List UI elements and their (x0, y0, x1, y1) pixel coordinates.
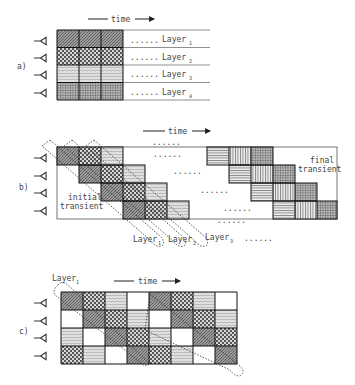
svg-text:......: ...... (244, 234, 273, 243)
antenna-icon (34, 89, 46, 96)
layer-diagram: a) time ...... ...... (0, 0, 355, 385)
svg-text:......: ...... (173, 167, 202, 176)
antenna-icon (34, 334, 46, 341)
antenna-icon (34, 299, 46, 306)
antenna-icon (34, 172, 46, 179)
layer-1-label: Layer (162, 35, 186, 44)
svg-text:2: 2 (189, 58, 192, 64)
panel-a-grid (57, 30, 123, 100)
antenna-icons-a (34, 37, 46, 96)
svg-text:1: 1 (76, 279, 79, 285)
svg-text:......: ...... (153, 150, 182, 159)
final-transient-label: final (310, 156, 334, 165)
svg-text:......: ...... (130, 70, 159, 79)
antenna-icon (34, 37, 46, 44)
svg-text:time: time (138, 277, 157, 286)
antenna-icon (34, 154, 46, 161)
svg-text:transient: transient (60, 202, 104, 211)
svg-text:1: 1 (189, 40, 192, 46)
svg-text:......: ...... (200, 186, 229, 195)
layer-1-label-c: Layer (52, 274, 76, 283)
antenna-icon (34, 71, 46, 78)
svg-text:2: 2 (193, 240, 196, 246)
layer-3-label: Layer (162, 70, 186, 79)
panel-c-grid (54, 283, 243, 377)
svg-text:time: time (168, 127, 187, 136)
layer-2-label: Layer (162, 53, 186, 62)
svg-text:Layer: Layer (205, 233, 229, 242)
antenna-icons-b (34, 154, 46, 214)
svg-text:3: 3 (230, 238, 233, 244)
svg-text:......: ...... (223, 204, 252, 213)
panel-c-label: c) (19, 327, 29, 336)
time-arrow-a: time (88, 15, 154, 24)
svg-text:......: ...... (130, 88, 159, 97)
antenna-icon (34, 189, 46, 196)
initial-transient-label: initial (68, 193, 102, 202)
panel-b-label: b) (19, 183, 29, 192)
panel-a: a) time ...... ...... (17, 15, 210, 100)
antenna-icon (34, 317, 46, 324)
panel-b-left-staircase (42, 140, 208, 246)
antenna-icon (34, 54, 46, 61)
svg-text:1: 1 (158, 240, 161, 246)
svg-text:......: ...... (130, 36, 159, 45)
svg-text:......: ...... (152, 138, 181, 147)
layer-4-label: Layer (162, 88, 186, 97)
svg-text:Layer: Layer (133, 235, 157, 244)
panel-b: b) time (19, 127, 342, 246)
panel-a-layer-labels: ...... ...... ...... ...... Layer1 Layer… (130, 35, 192, 99)
svg-text:......: ...... (217, 216, 246, 225)
svg-text:4: 4 (189, 93, 192, 99)
svg-text:Layer: Layer (168, 235, 192, 244)
svg-text:transient: transient (298, 165, 342, 174)
antenna-icon (34, 352, 46, 359)
svg-text:3: 3 (189, 75, 192, 81)
svg-text:time: time (111, 15, 130, 24)
antenna-icon (34, 207, 46, 214)
panel-a-label: a) (17, 62, 27, 71)
panel-c: c) Layer 1 time (19, 274, 243, 376)
antenna-icons-c (34, 299, 46, 359)
time-arrow-b: time (143, 127, 210, 136)
time-arrow-c: time (114, 277, 180, 286)
panel-b-layer-labels: Layer1 Layer2 Layer3 (133, 233, 233, 246)
svg-text:......: ...... (130, 53, 159, 62)
